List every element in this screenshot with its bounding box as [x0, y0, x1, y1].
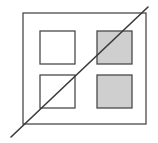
squares-diagram	[0, 0, 158, 143]
diagram-canvas	[0, 0, 158, 143]
inner-square-top-right	[97, 31, 132, 64]
inner-square-top-left	[40, 31, 75, 64]
inner-square-bottom-right	[97, 75, 132, 108]
inner-square-bottom-left	[40, 75, 75, 108]
